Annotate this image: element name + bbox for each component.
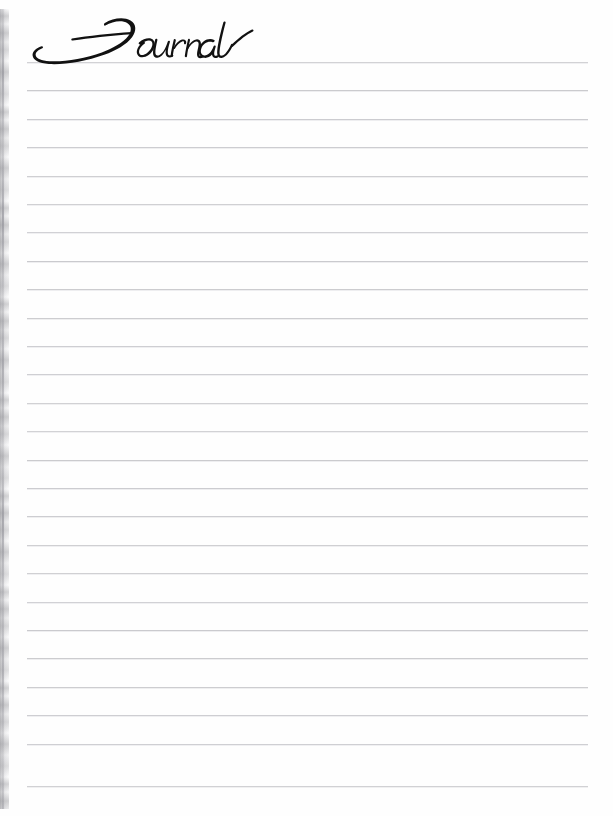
- ruled-line: [27, 346, 588, 347]
- ruled-line: [27, 374, 588, 375]
- ruled-line: [27, 602, 588, 603]
- ruled-line: [27, 744, 588, 745]
- journal-page: Journal: [0, 0, 613, 816]
- ruled-line: [27, 573, 588, 574]
- ruled-line: [27, 261, 588, 262]
- ruled-line: [27, 176, 588, 177]
- ruled-line: [27, 119, 588, 120]
- ruled-lines-group: [0, 0, 613, 816]
- ruled-line: [27, 318, 588, 319]
- ruled-line: [27, 204, 588, 205]
- ruled-line: [27, 786, 588, 787]
- ruled-line: [27, 545, 588, 546]
- ruled-line: [27, 658, 588, 659]
- page-title: Journal: [26, 14, 326, 72]
- ruled-line: [27, 289, 588, 290]
- journal-script-title-icon: [26, 14, 326, 72]
- ruled-line: [27, 232, 588, 233]
- ruled-line: [27, 403, 588, 404]
- ruled-line: [27, 460, 588, 461]
- ruled-line: [27, 630, 588, 631]
- ruled-line: [27, 715, 588, 716]
- ruled-line: [27, 687, 588, 688]
- ruled-line: [27, 147, 588, 148]
- ruled-line: [27, 488, 588, 489]
- ruled-line: [27, 90, 588, 91]
- ruled-line: [27, 516, 588, 517]
- page-title-text: Journal: [26, 14, 27, 15]
- ruled-line: [27, 431, 588, 432]
